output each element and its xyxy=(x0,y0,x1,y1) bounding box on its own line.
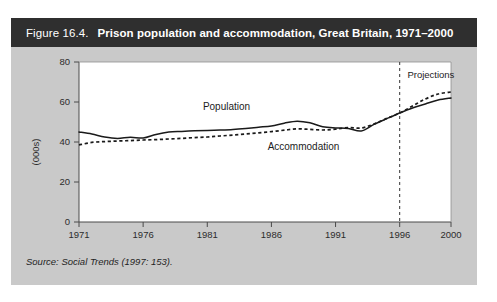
x-tick-label: 1971 xyxy=(68,229,89,240)
x-tick-label: 1996 xyxy=(389,229,410,240)
plot-background xyxy=(79,62,451,222)
y-tick-label: 60 xyxy=(59,96,70,107)
figure-title: Prison population and accommodation, Gre… xyxy=(98,27,454,39)
y-tick-label: 80 xyxy=(59,56,70,67)
accommodation-series-label: Accommodation xyxy=(268,141,340,152)
figure-root: Figure 16.4. Prison population and accom… xyxy=(0,0,497,302)
y-tick-label: 0 xyxy=(65,216,70,227)
figure-number: Figure 16.4. xyxy=(26,27,89,39)
y-tick-label: 20 xyxy=(59,176,70,187)
y-tick-label: 40 xyxy=(59,136,70,147)
chart-area: 020406080 1971197619811986199119962000 (… xyxy=(11,47,477,285)
x-tick-label: 1976 xyxy=(133,229,154,240)
figure-titlebar: Figure 16.4. Prison population and accom… xyxy=(11,18,477,47)
figure-panel: Figure 16.4. Prison population and accom… xyxy=(11,18,477,285)
projections-label: Projections xyxy=(407,69,454,80)
y-axis-title: (000s) xyxy=(30,139,41,166)
y-axis: 020406080 xyxy=(59,56,79,227)
population-series-label: Population xyxy=(203,101,250,112)
x-tick-label: 1986 xyxy=(261,229,282,240)
x-tick-label: 1981 xyxy=(197,229,218,240)
x-tick-label: 1991 xyxy=(325,229,346,240)
figure-source: Source: Social Trends (1997: 153). xyxy=(26,256,173,267)
line-chart: 020406080 1971197619811986199119962000 (… xyxy=(11,47,477,252)
x-axis: 1971197619811986199119962000 xyxy=(68,222,461,240)
x-tick-label: 2000 xyxy=(440,229,461,240)
